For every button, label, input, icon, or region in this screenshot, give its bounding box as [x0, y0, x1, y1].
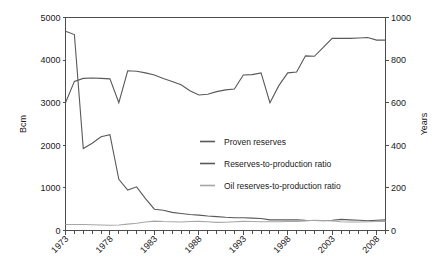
right-axis-tick-label: 600	[391, 98, 406, 108]
left-axis-tick-label: 2000	[40, 141, 60, 151]
left-axis-tick-label: 1000	[40, 183, 60, 193]
x-axis-tick-label: 1988	[183, 234, 204, 255]
x-axis-tick-label: 2003	[316, 234, 337, 255]
x-axis-tick-label: 1993	[227, 234, 248, 255]
legend-label-2: Oil reserves-to-production ratio	[224, 181, 341, 191]
left-axis-tick-label: 0	[55, 226, 60, 236]
right-axis-tick-label: 400	[391, 141, 406, 151]
axes: 0100020003000400050000200400600800100019…	[18, 13, 429, 255]
left-axis-tick-label: 3000	[40, 98, 60, 108]
x-axis-tick-label: 1998	[271, 234, 292, 255]
series-line-1	[66, 31, 386, 220]
right-axis-title: Years	[419, 112, 429, 135]
left-axis-tick-label: 4000	[40, 55, 60, 65]
chart-container: 0100020003000400050000200400600800100019…	[0, 0, 447, 272]
series-line-0	[66, 38, 386, 103]
x-axis-tick-label: 2008	[360, 234, 381, 255]
chart-legend: Proven reservesReserves-to-production ra…	[200, 137, 341, 191]
x-axis-tick-label: 1973	[49, 234, 70, 255]
line-chart: 0100020003000400050000200400600800100019…	[0, 0, 447, 272]
x-axis-tick-label: 1983	[138, 234, 159, 255]
left-axis-title: Bcm	[18, 115, 28, 133]
right-axis-tick-label: 800	[391, 55, 406, 65]
legend-label-1: Reserves-to-production ratio	[224, 159, 332, 169]
legend-label-0: Proven reserves	[224, 137, 286, 147]
series-line-2	[66, 220, 386, 225]
x-axis-tick-label: 1978	[94, 234, 115, 255]
right-axis-tick-label: 200	[391, 183, 406, 193]
data-series	[66, 31, 386, 225]
right-axis-tick-label: 0	[391, 226, 396, 236]
right-axis-tick-label: 1000	[391, 13, 411, 23]
left-axis-tick-label: 5000	[40, 13, 60, 23]
